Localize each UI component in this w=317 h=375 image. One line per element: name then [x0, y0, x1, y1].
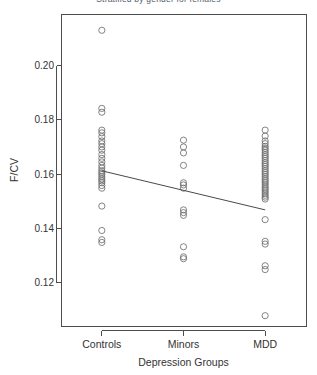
- data-point: [99, 203, 105, 209]
- data-point: [99, 109, 105, 115]
- data-point: [180, 244, 186, 250]
- data-point: [99, 227, 105, 233]
- series-controls: [99, 27, 105, 245]
- y-axis-tick-label: 0.20: [35, 60, 55, 71]
- y-axis-tick-label: 0.12: [35, 277, 55, 288]
- data-point: [99, 27, 105, 33]
- data-point: [99, 159, 105, 165]
- y-axis-tick-label: 0.14: [35, 223, 55, 234]
- data-point: [262, 313, 268, 319]
- x-axis-tick-label-mdd: MDD: [253, 338, 277, 350]
- data-point: [99, 155, 105, 161]
- regression-line: [102, 171, 265, 210]
- y-axis-tick-label: 0.16: [35, 169, 55, 180]
- x-axis-tick-label-minors: Minors: [168, 338, 200, 350]
- data-point: [262, 217, 268, 223]
- series-minors: [180, 137, 186, 262]
- series-mdd: [262, 127, 268, 319]
- scatter-plot-canvas: 0.120.140.160.180.20F/CVControlsMinorsMD…: [0, 0, 317, 375]
- y-axis-title: F/CV: [8, 158, 20, 182]
- y-axis-tick-label: 0.18: [35, 114, 55, 125]
- figure-container: Stratified by gender for females 0.120.1…: [0, 0, 317, 375]
- data-point: [262, 266, 268, 272]
- data-point: [180, 150, 186, 156]
- x-axis-tick-label-controls: Controls: [82, 338, 121, 350]
- data-point: [180, 144, 186, 150]
- data-point: [180, 162, 186, 168]
- data-point: [180, 137, 186, 143]
- x-axis-title: Depression Groups: [138, 356, 228, 368]
- data-point: [262, 127, 268, 133]
- plot-frame: [62, 15, 307, 327]
